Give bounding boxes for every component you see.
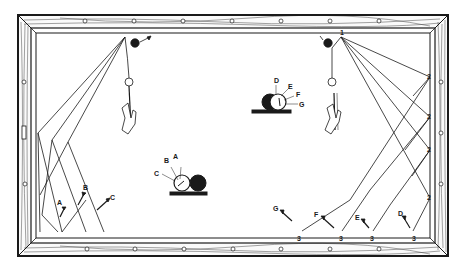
label-cushion-3-d: 3 bbox=[412, 235, 416, 242]
label-right-end-g: G bbox=[273, 205, 278, 212]
billiard-diagram bbox=[0, 0, 463, 267]
side-pocket-marker bbox=[22, 126, 26, 139]
label-left-end-b: B bbox=[83, 184, 88, 191]
label-left-contact-c: C bbox=[154, 170, 159, 177]
label-cushion-3-a: 3 bbox=[297, 235, 301, 242]
label-right-end-d: D bbox=[398, 210, 403, 217]
label-left-end-a: A bbox=[57, 199, 62, 206]
label-cushion-3-b: 3 bbox=[339, 235, 343, 242]
label-cushion-2-b: 2 bbox=[427, 113, 431, 120]
label-cushion-2-d: 2 bbox=[427, 194, 431, 201]
label-cushion-3-c: 3 bbox=[370, 235, 374, 242]
label-left-contact-a: A bbox=[173, 153, 178, 160]
label-right-contact-e: E bbox=[288, 83, 293, 90]
object-ball-icon bbox=[324, 39, 332, 47]
label-left-contact-b: B bbox=[164, 157, 169, 164]
object-ball-icon bbox=[131, 39, 139, 47]
label-left-end-c: C bbox=[110, 194, 115, 201]
label-cushion-2-c: 2 bbox=[427, 146, 431, 153]
label-right-contact-g: G bbox=[299, 101, 304, 108]
label-cushion-2-a: 2 bbox=[427, 73, 431, 80]
label-origin-1: 1 bbox=[340, 29, 344, 36]
table-frame bbox=[18, 15, 448, 256]
label-right-contact-f: F bbox=[296, 91, 300, 98]
label-right-end-e: E bbox=[355, 214, 360, 221]
label-right-contact-d: D bbox=[274, 77, 279, 84]
label-right-end-f: F bbox=[314, 211, 318, 218]
